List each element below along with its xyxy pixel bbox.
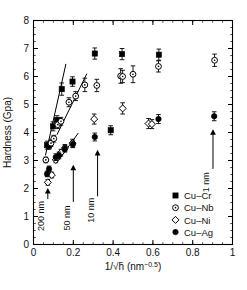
x-axis-title-unit: (nm [124, 261, 144, 272]
x-axis-title-close-paren: ) [158, 261, 161, 272]
y-tick-label: 6 [23, 71, 29, 82]
y-tick-label: 4 [23, 127, 29, 138]
data-point-marker [70, 142, 75, 147]
data-point-marker [119, 105, 126, 112]
legend-label-cu-cr: Cu–Cr [184, 190, 211, 201]
data-point-marker-center-dot [45, 159, 47, 161]
y-axis-title: Hardness (Gpa) [2, 97, 13, 168]
annotation-arrow-head [210, 129, 216, 135]
y-tick-label: 8 [23, 15, 29, 26]
data-point-marker-center-dot [75, 95, 77, 97]
figure-container: 00.20.40.60.81 012345678 200 nm50 nm10 n… [0, 0, 247, 290]
annotation-arrow-head [45, 188, 51, 194]
series-cu-cr [44, 48, 161, 149]
data-point-marker [56, 153, 61, 158]
x-axis-tick-labels: 00.20.40.60.81 [31, 247, 236, 258]
x-tick-label: 1 [230, 247, 236, 258]
data-point-marker-center-dot [50, 142, 52, 144]
annotation-label: 10 nm [86, 198, 96, 223]
y-tick-label: 3 [23, 155, 29, 166]
x-tick-label: 0.8 [186, 247, 200, 258]
legend-marker-2-marker [172, 216, 179, 223]
data-point-marker-center-dot [132, 73, 134, 75]
x-axis-title: 1/√h̄ (nm−0.5) [105, 261, 162, 272]
data-point-marker [119, 52, 124, 57]
data-point-marker-center-dot [158, 66, 160, 68]
data-point-marker [92, 134, 97, 139]
series-cu-ag [44, 112, 217, 177]
legend-marker-3-marker [173, 229, 178, 234]
data-point-marker [70, 79, 75, 84]
legend-marker-0-marker [173, 193, 178, 198]
data-point-marker-center-dot [84, 84, 86, 86]
data-point-marker-center-dot [68, 101, 70, 103]
data-point-marker-center-dot [57, 124, 59, 126]
chart-legend: Cu–CrCu–NbCu–NiCu–Ag [172, 190, 214, 238]
data-point-marker-center-dot [60, 120, 62, 122]
data-point-marker [108, 128, 113, 133]
data-point-marker [59, 87, 64, 92]
x-axis-title-prefix: 1/ [105, 261, 114, 272]
legend-label-cu-ag: Cu–Ag [184, 227, 213, 238]
annotation-arrow-head [70, 165, 76, 171]
series-cu-ni [44, 103, 155, 186]
data-point-marker-center-dot [53, 138, 55, 140]
y-tick-label: 2 [23, 183, 29, 194]
x-axis-title-radical: √h̄ [113, 261, 124, 272]
data-point-marker [92, 51, 97, 56]
legend-label-cu-ni: Cu–Ni [184, 215, 210, 226]
legend-marker-1-marker-center-dot [175, 207, 177, 209]
y-axis-tick-labels: 012345678 [23, 15, 29, 250]
hardness-vs-inverse-sqrt-thickness-chart: 00.20.40.60.81 012345678 200 nm50 nm10 n… [0, 0, 247, 290]
annotation-label: 200 nm [36, 201, 46, 231]
data-point-marker-center-dot [96, 85, 98, 87]
data-point-marker [156, 116, 161, 121]
y-tick-label: 0 [23, 239, 29, 250]
data-point-marker [211, 114, 216, 119]
data-point-marker-center-dot [122, 76, 124, 78]
annotation-label: 50 nm [62, 205, 72, 230]
y-tick-label: 5 [23, 99, 29, 110]
y-tick-label: 1 [23, 211, 29, 222]
legend-label-cu-nb: Cu–Nb [184, 202, 214, 213]
data-point-marker [44, 179, 51, 186]
x-tick-label: 0.2 [66, 247, 80, 258]
data-point-marker [46, 166, 51, 171]
data-point-marker [62, 146, 67, 151]
annotation-arrow-head [95, 150, 101, 156]
y-tick-label: 7 [23, 43, 29, 54]
data-series-group [43, 48, 218, 186]
x-tick-label: 0.4 [106, 247, 120, 258]
x-axis-title-exponent: −0.5 [144, 261, 158, 268]
data-point-marker [91, 116, 98, 123]
data-point-marker [156, 52, 161, 57]
x-tick-label: 0 [31, 247, 37, 258]
data-point-marker-center-dot [214, 59, 216, 61]
x-tick-label: 0.6 [146, 247, 160, 258]
